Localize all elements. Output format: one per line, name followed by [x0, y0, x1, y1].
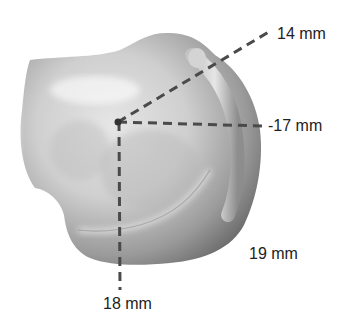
label-18mm: 18 mm — [103, 296, 152, 312]
label-19mm: 19 mm — [249, 246, 298, 262]
label-17mm: -17 mm — [268, 118, 322, 134]
center-point — [115, 119, 122, 126]
label-14mm: 14 mm — [277, 26, 326, 42]
bone-shape — [0, 33, 261, 265]
bone-measurement-diagram — [0, 0, 361, 329]
